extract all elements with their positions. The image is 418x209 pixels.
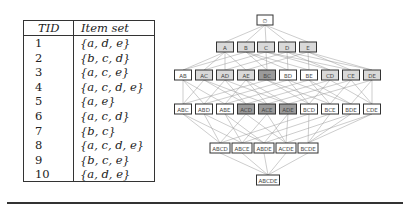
lattice-node: ABDE bbox=[254, 143, 274, 153]
lattice-node: ABC bbox=[175, 104, 192, 114]
lattice-edge bbox=[330, 80, 351, 104]
node-label: BC bbox=[263, 73, 271, 79]
lattice-edge bbox=[204, 114, 220, 143]
lattice-edge bbox=[246, 114, 286, 143]
lattice-edge bbox=[287, 52, 288, 70]
lattice-edge bbox=[288, 80, 372, 104]
lattice-edge bbox=[265, 25, 308, 42]
lattice-edge bbox=[286, 114, 372, 143]
lattice-edge bbox=[308, 114, 330, 143]
node-label: BE bbox=[305, 73, 313, 79]
node-label: ABC bbox=[177, 107, 188, 113]
node-label: CE bbox=[347, 73, 355, 79]
lattice-node: AD bbox=[217, 70, 234, 80]
lattice-edge bbox=[288, 80, 309, 104]
node-label: ABCDE bbox=[259, 178, 279, 184]
node-label: BD bbox=[284, 73, 292, 79]
lattice-node: BE bbox=[301, 70, 318, 80]
node-label: B bbox=[244, 45, 248, 51]
lattice-node: ∅ bbox=[257, 15, 273, 25]
lattice-edge bbox=[183, 80, 267, 104]
node-label: D bbox=[285, 45, 289, 51]
lattice-node: ACD bbox=[238, 104, 255, 114]
lattice-edge bbox=[267, 80, 351, 104]
node-label: ADE bbox=[282, 107, 294, 113]
lattice-edge bbox=[225, 80, 309, 104]
lattice-node: BCD bbox=[301, 104, 318, 114]
lattice-edge bbox=[308, 114, 372, 143]
lattice-edge bbox=[225, 25, 265, 42]
lattice-node: A bbox=[217, 42, 234, 52]
node-label: AD bbox=[221, 73, 229, 79]
lattice-node: CDE bbox=[364, 104, 381, 114]
node-label: AE bbox=[242, 73, 250, 79]
lattice-node: CE bbox=[343, 70, 360, 80]
lattice-node: AB bbox=[175, 70, 192, 80]
lattice-node: BCE bbox=[322, 104, 339, 114]
node-label: ∅ bbox=[263, 18, 268, 24]
lattice-edge bbox=[183, 114, 220, 143]
lattice-edge bbox=[264, 114, 351, 143]
lattice-node: ACDE bbox=[276, 143, 296, 153]
lattice-edge bbox=[308, 52, 351, 70]
node-label: ABCD bbox=[212, 146, 228, 152]
lattice-node: BCDE bbox=[298, 143, 318, 153]
lattice-edge bbox=[264, 114, 288, 143]
lattice-node: C bbox=[258, 42, 275, 52]
lattice-edge bbox=[330, 80, 372, 104]
lattice-node: ABCE bbox=[232, 143, 252, 153]
lattice-node: B bbox=[238, 42, 255, 52]
lattice-node: DE bbox=[364, 70, 381, 80]
lattice-edge bbox=[225, 114, 264, 143]
lattice-node: AC bbox=[196, 70, 213, 80]
node-label: BCDE bbox=[300, 146, 316, 152]
node-label: BCD bbox=[303, 107, 315, 113]
lattice-edge bbox=[220, 153, 268, 175]
lattice-node: CD bbox=[322, 70, 339, 80]
lattice-edge bbox=[242, 114, 330, 143]
horizontal-rule bbox=[7, 202, 403, 204]
lattice-node: ADE bbox=[280, 104, 297, 114]
lattice-edge bbox=[265, 25, 287, 42]
itemset-lattice: ∅ABCDEABACADAEBCBDBECDCEDEABCABDABEACDAC… bbox=[0, 0, 418, 209]
lattice-node: AE bbox=[238, 70, 255, 80]
lattice-edge bbox=[308, 52, 372, 70]
lattice-edge bbox=[204, 80, 225, 104]
node-label: AB bbox=[179, 73, 187, 79]
node-label: CD bbox=[326, 73, 334, 79]
lattice-node: D bbox=[279, 42, 296, 52]
node-label: BDE bbox=[345, 107, 357, 113]
node-label: C bbox=[264, 45, 268, 51]
lattice-node: BD bbox=[280, 70, 297, 80]
lattice-edge bbox=[268, 153, 286, 175]
node-label: ACDE bbox=[278, 146, 294, 152]
node-label: CDE bbox=[366, 107, 378, 113]
node-label: ACD bbox=[240, 107, 252, 113]
lattice-node: BDE bbox=[343, 104, 360, 114]
lattice-edge bbox=[246, 80, 267, 104]
node-label: BCE bbox=[325, 107, 337, 113]
node-label: ACE bbox=[262, 107, 274, 113]
lattice-edge bbox=[183, 52, 246, 70]
node-label: E bbox=[306, 45, 310, 51]
lattice-edge bbox=[183, 52, 225, 70]
lattice-edge bbox=[242, 153, 268, 175]
node-label: AC bbox=[200, 73, 208, 79]
lattice-edge bbox=[264, 153, 268, 175]
node-label: ABD bbox=[198, 107, 210, 113]
node-label: A bbox=[223, 45, 227, 51]
lattice-edge bbox=[268, 153, 308, 175]
node-label: ABDE bbox=[256, 146, 272, 152]
lattice-node: ABE bbox=[217, 104, 234, 114]
node-label: ABE bbox=[219, 107, 231, 113]
lattice-edge bbox=[183, 80, 225, 104]
lattice-node: ACE bbox=[259, 104, 276, 114]
lattice-edge bbox=[204, 80, 288, 104]
node-label: DE bbox=[368, 73, 376, 79]
lattice-node: ABD bbox=[196, 104, 213, 114]
node-label: ABCE bbox=[235, 146, 250, 152]
lattice-node: E bbox=[300, 42, 317, 52]
lattice-node: ABCD bbox=[210, 143, 230, 153]
lattice-edge bbox=[246, 80, 330, 104]
lattice-edge bbox=[265, 25, 266, 42]
